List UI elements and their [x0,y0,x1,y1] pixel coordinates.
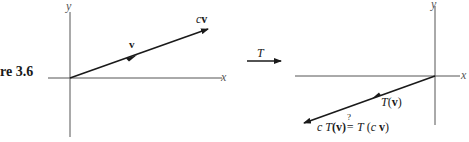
T-symbol: T [325,120,332,134]
T-symbol: T [357,120,364,134]
diagram-graphics [0,0,469,142]
equals-sign: = [347,120,354,134]
scalar-c: c [317,120,322,134]
scalar-c: c [371,120,376,134]
lhs-argument: (v) [332,120,346,134]
T-symbol: T [381,95,388,109]
Tv-label: T(v) [381,96,402,108]
figure-canvas: re 3.6 y x v cv T y x T(v) c T(v)?= T (c… [0,0,469,142]
right-x-axis-label: x [461,69,466,81]
right-vector-cTv [304,76,435,123]
question-mark: ? [347,113,351,122]
left-vector-cv [70,29,208,78]
left-x-axis-label: x [221,71,226,83]
transform-label: T [257,47,264,59]
vector-v: v [201,12,207,26]
questioned-equals: ?= [346,121,354,133]
figure-caption: re 3.6 [0,65,33,79]
right-y-axis-label: y [431,0,436,10]
vector-cv-label: cv [196,13,207,25]
paren-close: ) [398,95,402,109]
left-y-axis-label: y [66,0,71,12]
linearity-equation: c T(v)?= T (c v) [317,121,389,133]
vector-v-label: v [129,39,135,50]
paren-close: ) [385,120,389,134]
